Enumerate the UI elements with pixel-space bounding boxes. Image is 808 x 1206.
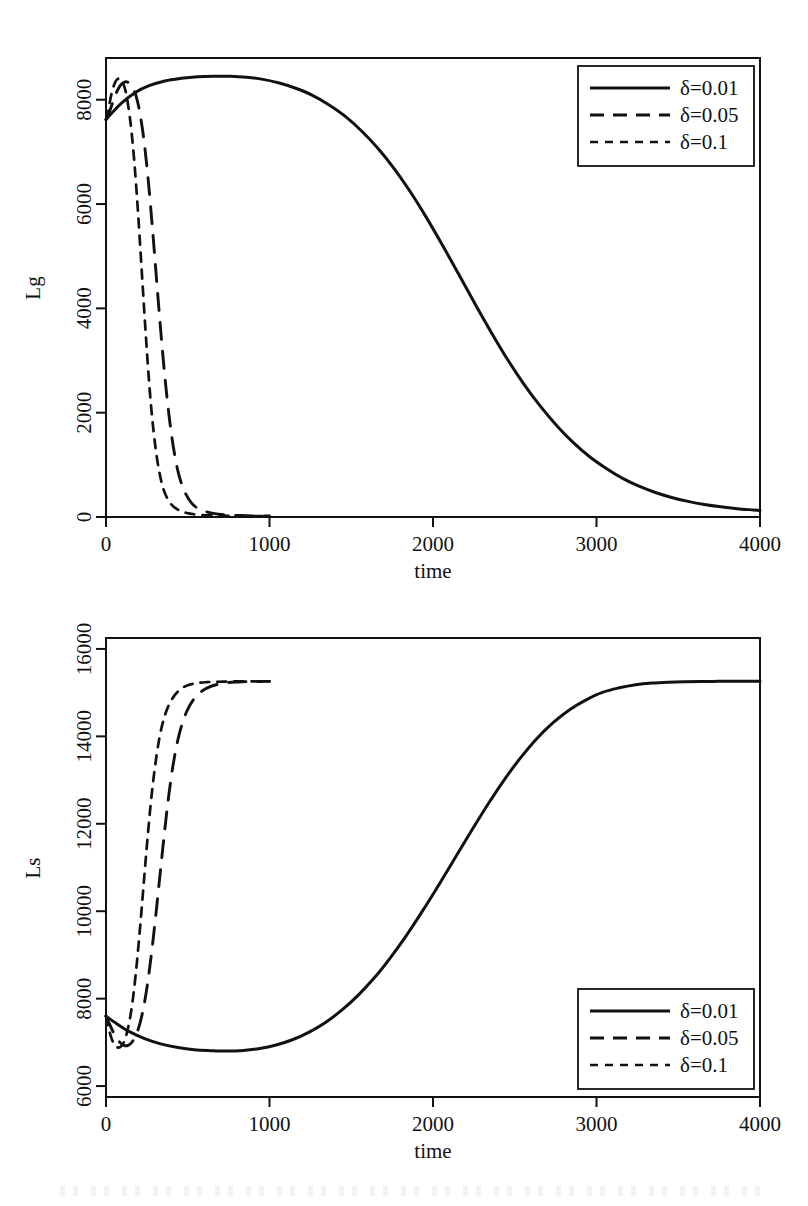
ls-legend-label: δ=0.05 [680,1026,739,1050]
lg-y-tick-label: 8000 [72,79,96,121]
figure-page: 02000400060008000 01000200030004000 Lg t… [0,0,808,1206]
chart-panel-ls: 6000800010000120001400016000 01000200030… [0,598,808,1178]
lg-legend-label: δ=0.05 [680,103,739,127]
ls-y-tick-label: 16000 [72,623,96,676]
ls-y-axis-ticks: 6000800010000120001400016000 [72,623,106,1107]
lg-y-tick-label: 6000 [72,183,96,225]
lg-y-axis-title: Lg [21,276,45,300]
ls-y-axis-title: Ls [21,858,45,879]
lg-y-tick-label: 2000 [72,392,96,434]
ls-series-long-dash [106,681,270,1045]
ls-x-tick-label: 4000 [739,1112,781,1136]
lg-x-tick-label: 0 [101,532,112,556]
ls-x-axis-ticks: 01000200030004000 [101,1097,781,1136]
ls-x-tick-label: 1000 [249,1112,291,1136]
ls-y-tick-label: 8000 [72,978,96,1020]
lg-legend-label: δ=0.1 [680,130,728,154]
ls-legend[interactable]: δ=0.01δ=0.05δ=0.1 [578,989,754,1089]
lg-x-axis-ticks: 01000200030004000 [101,517,781,556]
ls-y-tick-label: 10000 [72,885,96,938]
lg-legend[interactable]: δ=0.01δ=0.05δ=0.1 [578,66,754,166]
chart-panel-lg: 02000400060008000 01000200030004000 Lg t… [0,0,808,600]
lg-x-tick-label: 2000 [412,532,454,556]
ls-x-tick-label: 0 [101,1112,112,1136]
lg-series-long-dash [106,82,270,516]
lg-x-tick-label: 1000 [249,532,291,556]
lg-x-tick-label: 4000 [739,532,781,556]
caption-artifact [60,1186,760,1196]
lg-y-axis-ticks: 02000400060008000 [72,79,106,523]
lg-plot-svg: 02000400060008000 01000200030004000 Lg t… [0,0,808,600]
lg-y-tick-label: 4000 [72,287,96,329]
ls-series-short-dash [106,681,270,1047]
ls-x-axis-title: time [414,1139,451,1163]
lg-series-short-dash [106,79,270,516]
ls-plot-svg: 6000800010000120001400016000 01000200030… [0,598,808,1178]
lg-y-tick-label: 0 [72,512,96,523]
lg-legend-label: δ=0.01 [680,76,739,100]
ls-x-tick-label: 2000 [412,1112,454,1136]
ls-y-tick-label: 6000 [72,1065,96,1107]
ls-legend-label: δ=0.1 [680,1053,728,1077]
ls-y-tick-label: 12000 [72,798,96,851]
ls-y-tick-label: 14000 [72,710,96,763]
ls-x-tick-label: 3000 [576,1112,618,1136]
lg-x-axis-title: time [414,559,451,583]
lg-x-tick-label: 3000 [576,532,618,556]
ls-legend-label: δ=0.01 [680,999,739,1023]
